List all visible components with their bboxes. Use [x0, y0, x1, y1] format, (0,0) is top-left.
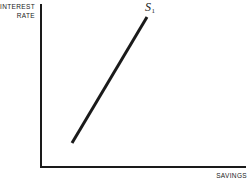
supply-curve-line — [72, 17, 147, 143]
supply-curve-label-letter: S — [145, 0, 151, 14]
savings-supply-diagram: INTEREST RATE SAVINGS S1 — [0, 0, 251, 190]
supply-curve-label-subscript: 1 — [152, 7, 156, 15]
curve-layer — [0, 0, 251, 190]
supply-curve-label: S1 — [145, 1, 155, 16]
